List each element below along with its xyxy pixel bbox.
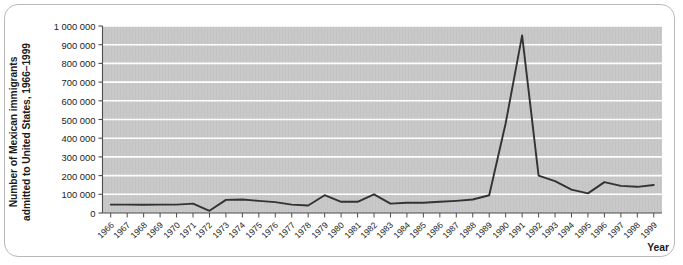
y-tick-label: 600 000 [0, 95, 96, 106]
x-axis-title: Year [647, 242, 669, 253]
y-tick-label: 900 000 [0, 39, 96, 50]
y-tick-label: 0 [0, 208, 96, 219]
y-tick-label: 400 000 [0, 133, 96, 144]
y-tick-label: 200 000 [0, 170, 96, 181]
y-tick-label: 100 000 [0, 189, 96, 200]
chart-plot-area: Number of Mexican immigrants admitted to… [0, 0, 683, 265]
y-tick-label: 700 000 [0, 77, 96, 88]
y-tick-label: 300 000 [0, 151, 96, 162]
y-tick-label: 1 000 000 [0, 21, 96, 32]
y-tick-label: 800 000 [0, 58, 96, 69]
y-tick-label: 500 000 [0, 114, 96, 125]
